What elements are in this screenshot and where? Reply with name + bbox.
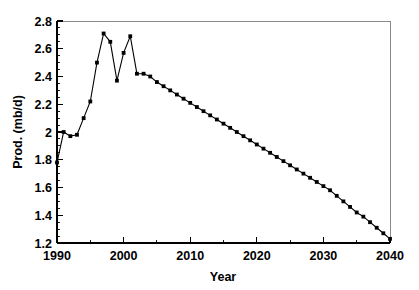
data-point-marker — [115, 79, 119, 83]
x-tick-label: 2020 — [243, 249, 271, 263]
chart-container: 1.21.41.61.822.22.42.62.8 19902000201020… — [0, 0, 419, 290]
y-tick-label: 1.8 — [35, 153, 52, 167]
data-point-marker — [248, 138, 252, 142]
data-point-marker — [255, 143, 259, 147]
data-point-marker — [95, 61, 99, 65]
data-point-marker — [235, 130, 239, 134]
data-point-marker — [282, 159, 286, 163]
data-point-marker — [288, 163, 292, 167]
data-point-marker — [222, 122, 226, 126]
data-point-marker — [302, 172, 306, 176]
data-point-marker — [108, 40, 112, 44]
data-point-marker — [148, 75, 152, 79]
x-tick-label: 2000 — [110, 249, 138, 263]
x-axis-tick-labels: 199020002010202020302040 — [43, 249, 404, 263]
x-tick-label: 2030 — [309, 249, 337, 263]
x-tick-label: 2040 — [376, 249, 404, 263]
data-point-marker — [308, 176, 312, 180]
data-point-marker — [55, 161, 59, 165]
data-point-marker — [68, 134, 72, 138]
y-tick-label: 2.6 — [35, 42, 52, 56]
data-point-marker — [75, 133, 79, 137]
x-tick-label: 1990 — [43, 249, 71, 263]
x-axis-title: Year — [210, 270, 237, 284]
y-axis-title: Prod. (mb/d) — [11, 95, 25, 169]
y-tick-label: 1.4 — [35, 209, 52, 223]
data-point-marker — [62, 130, 66, 134]
data-point-marker — [88, 100, 92, 104]
data-point-marker — [188, 101, 192, 105]
data-point-marker — [182, 97, 186, 101]
data-point-marker — [215, 118, 219, 122]
x-tick-label: 2010 — [176, 249, 204, 263]
y-tick-label: 1.6 — [35, 181, 52, 195]
data-point-marker — [242, 134, 246, 138]
data-point-marker — [388, 237, 392, 241]
y-tick-label: 2.2 — [35, 98, 52, 112]
y-tick-label: 2.4 — [35, 70, 52, 84]
data-point-marker — [295, 168, 299, 172]
series-markers-production — [55, 32, 392, 241]
data-point-marker — [341, 199, 345, 203]
data-point-marker — [202, 109, 206, 113]
data-point-marker — [135, 72, 139, 76]
data-point-marker — [368, 220, 372, 224]
data-point-marker — [361, 215, 365, 219]
data-point-marker — [375, 226, 379, 230]
data-point-marker — [168, 88, 172, 92]
data-point-marker — [348, 205, 352, 209]
data-point-marker — [128, 34, 132, 38]
data-point-marker — [315, 180, 319, 184]
data-point-marker — [162, 84, 166, 88]
y-tick-label: 2.8 — [35, 15, 52, 29]
data-point-marker — [208, 113, 212, 117]
series-line-production — [57, 33, 390, 238]
data-point-marker — [228, 126, 232, 130]
data-point-marker — [322, 184, 326, 188]
data-point-marker — [122, 51, 126, 55]
data-point-marker — [381, 231, 385, 235]
data-point-marker — [82, 116, 86, 120]
data-point-marker — [268, 151, 272, 155]
data-point-marker — [155, 80, 159, 84]
data-point-marker — [275, 155, 279, 159]
y-tick-label: 2 — [45, 126, 52, 140]
data-point-marker — [328, 188, 332, 192]
y-axis-tick-labels: 1.21.41.61.822.22.42.62.8 — [35, 15, 52, 251]
production-line-chart: 1.21.41.61.822.22.42.62.8 19902000201020… — [0, 0, 419, 290]
data-point-marker — [355, 211, 359, 215]
data-point-marker — [195, 105, 199, 109]
data-point-marker — [335, 194, 339, 198]
data-point-marker — [175, 93, 179, 97]
data-point-marker — [142, 72, 146, 76]
plot-frame — [57, 21, 390, 243]
data-point-marker — [262, 147, 266, 151]
data-point-marker — [102, 32, 106, 36]
